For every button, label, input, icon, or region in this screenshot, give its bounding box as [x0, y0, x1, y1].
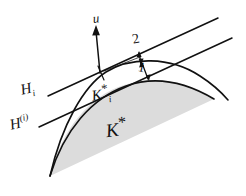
- label-normal-vector: u: [92, 11, 100, 25]
- label-H-sup-superscript: (i): [18, 112, 29, 124]
- shaded-region: [50, 80, 214, 176]
- normal-arrow-head: [92, 25, 100, 36]
- figure-container: Hi H(i) u K*i K* 2 1: [0, 0, 246, 196]
- label-body-outer: K*: [104, 114, 128, 140]
- measure-connector: [104, 57, 140, 71]
- diagram-canvas: [0, 0, 246, 196]
- label-body-inner: K*i: [90, 82, 112, 107]
